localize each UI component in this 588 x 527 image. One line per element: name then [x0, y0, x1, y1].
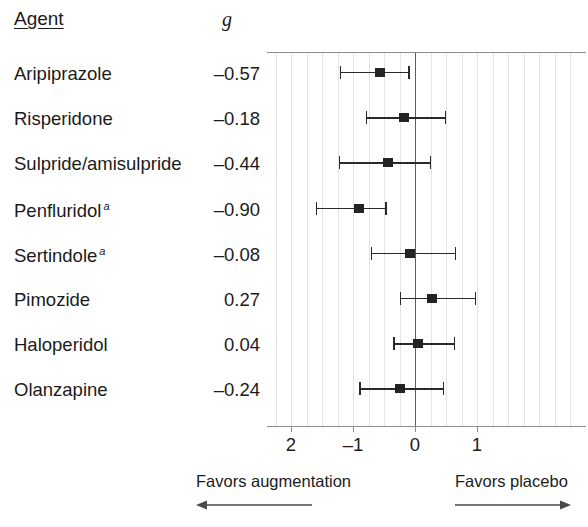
agent-label: Sertindolea: [14, 246, 105, 266]
agent-name-text: Penfluridol: [14, 200, 101, 221]
x-axis-tick: [353, 427, 354, 432]
effect-size-marker: [383, 158, 393, 167]
plot-bottom-rule: [267, 426, 586, 427]
x-axis-tick-label: 0: [410, 436, 420, 455]
agent-label: Haloperidol: [14, 336, 108, 355]
right-arrow-container: [455, 497, 571, 517]
x-axis-tick-label: 1: [472, 436, 482, 455]
forest-row: [267, 242, 586, 266]
ci-cap-lower: [359, 382, 360, 395]
ci-cap-lower: [400, 292, 401, 305]
ci-cap-upper: [475, 292, 476, 305]
ci-cap-upper: [445, 111, 446, 124]
effect-size-value: 0.04: [172, 336, 260, 355]
confidence-interval-line: [316, 208, 385, 209]
ci-cap-upper: [455, 247, 456, 260]
ci-cap-upper: [454, 337, 455, 350]
effect-size-value: –0.24: [172, 381, 260, 400]
effect-size-marker: [395, 384, 405, 393]
effect-size-value: –0.44: [172, 155, 260, 174]
agent-label: Pimozide: [14, 291, 90, 310]
agent-label: Penfluridola: [14, 201, 110, 221]
footnote-marker: a: [99, 245, 105, 257]
agent-name-text: Risperidone: [14, 108, 113, 129]
ci-cap-upper: [385, 202, 386, 215]
ci-cap-upper: [408, 66, 409, 79]
favors-placebo-label: Favors placebo: [455, 473, 568, 490]
forest-plot-figure: Agent g Aripiprazole–0.57Risperidone–0.1…: [0, 0, 588, 527]
effect-size-value: –0.57: [172, 65, 260, 84]
footnote-marker: a: [103, 200, 109, 212]
effect-size-marker: [354, 204, 364, 213]
effect-size-marker: [375, 68, 385, 77]
ci-cap-upper: [443, 382, 444, 395]
x-axis-tick-label: –1: [343, 436, 364, 455]
ci-cap-upper: [430, 156, 431, 169]
agent-label: Sulpride/amisulpride: [14, 155, 182, 174]
forest-row: [267, 151, 586, 175]
forest-row: [267, 61, 586, 85]
effect-size-value: –0.18: [172, 110, 260, 129]
confidence-interval-line: [393, 343, 454, 344]
effect-size-value: –0.90: [172, 201, 260, 220]
column-header-agent: Agent: [14, 8, 64, 30]
effect-size-marker: [413, 339, 423, 348]
column-header-effect-size: g: [222, 8, 232, 31]
plot-area: [267, 52, 586, 427]
arrow-left-icon: [196, 497, 312, 513]
ci-cap-lower: [371, 247, 372, 260]
forest-row: [267, 197, 586, 221]
effect-size-marker: [399, 113, 409, 122]
effect-size-marker: [405, 249, 415, 258]
agent-name-text: Sulpride/amisulpride: [14, 153, 182, 174]
forest-row: [267, 287, 586, 311]
x-axis-tick: [291, 427, 292, 432]
effect-size-marker: [427, 294, 437, 303]
agent-name-text: Aripiprazole: [14, 63, 112, 84]
agent-label: Olanzapine: [14, 381, 108, 400]
forest-row: [267, 106, 586, 130]
forest-row: [267, 332, 586, 356]
ci-cap-lower: [393, 337, 394, 350]
agent-name-text: Olanzapine: [14, 379, 108, 400]
ci-cap-lower: [340, 66, 341, 79]
forest-row: [267, 377, 586, 401]
x-axis-tick: [477, 427, 478, 432]
favors-augmentation-label: Favors augmentation: [196, 473, 351, 490]
effect-size-value: –0.08: [172, 246, 260, 265]
ci-cap-lower: [366, 111, 367, 124]
agent-name-text: Sertindole: [14, 245, 97, 266]
left-arrow-container: [196, 497, 312, 517]
ci-cap-lower: [339, 156, 340, 169]
agent-name-text: Haloperidol: [14, 334, 108, 355]
arrow-right-icon: [455, 497, 571, 513]
agent-label: Risperidone: [14, 110, 113, 129]
x-axis-tick-label: 2: [286, 436, 296, 455]
x-axis-tick: [415, 427, 416, 432]
agent-name-text: Pimozide: [14, 289, 90, 310]
effect-size-value: 0.27: [172, 291, 260, 310]
agent-label: Aripiprazole: [14, 65, 112, 84]
confidence-interval-line: [400, 298, 476, 299]
ci-cap-lower: [316, 202, 317, 215]
